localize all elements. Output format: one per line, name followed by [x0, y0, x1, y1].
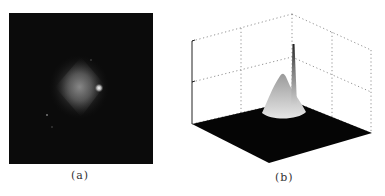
panel-b-surface-plot	[0, 0, 385, 196]
caption-b: (b)	[275, 171, 294, 184]
broad-peak	[262, 74, 306, 119]
